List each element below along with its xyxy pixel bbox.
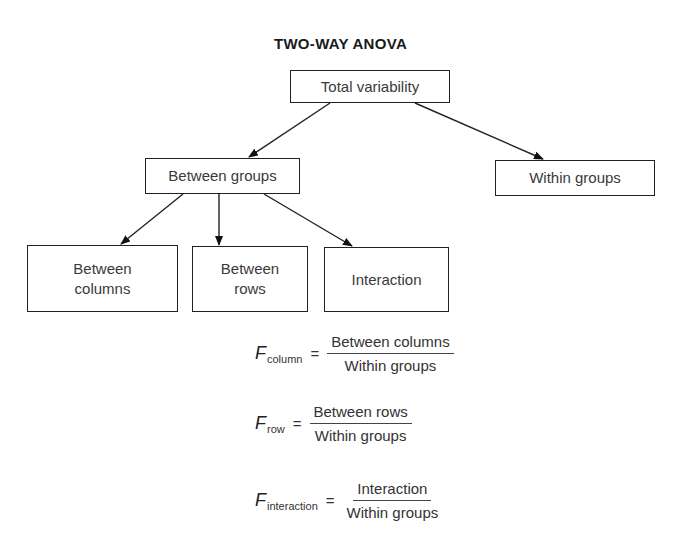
equals-sign: = [310,345,319,362]
node-label-line1: Between [73,259,131,279]
formula-f-row: F row = Between rows Within groups [255,403,412,444]
f-symbol: F [255,413,266,434]
node-within-groups: Within groups [495,160,655,196]
node-label-line2: rows [234,279,266,299]
f-subscript: interaction [267,500,318,512]
node-label: Within groups [529,168,621,188]
arrow-between-groups-to-columns [121,194,183,244]
denominator: Within groups [341,354,441,374]
f-subscript: row [267,423,285,435]
node-total-variability: Total variability [290,70,450,103]
denominator: Within groups [343,501,443,521]
node-label-line1: Between [221,259,279,279]
arrow-total-to-within-groups [415,103,543,159]
node-between-columns: Between columns [27,245,178,312]
node-label-line2: columns [75,279,131,299]
f-symbol: F [255,343,266,364]
numerator: Interaction [353,480,431,501]
fraction: Interaction Within groups [343,480,443,521]
arrow-between-groups-to-interaction [264,194,352,246]
fraction: Between columns Within groups [327,333,453,374]
fraction: Between rows Within groups [310,403,412,444]
equals-sign: = [293,415,302,432]
node-label: Between groups [168,166,276,186]
node-label: Total variability [321,77,419,97]
f-subscript: column [267,353,302,365]
numerator: Between rows [310,403,412,424]
node-between-groups: Between groups [145,158,300,194]
numerator: Between columns [327,333,453,354]
formula-f-column: F column = Between columns Within groups [255,333,454,374]
node-interaction: Interaction [324,247,449,312]
node-label: Interaction [351,270,421,290]
denominator: Within groups [311,424,411,444]
node-between-rows: Between rows [192,246,308,312]
f-symbol: F [255,490,266,511]
formula-f-interaction: F interaction = Interaction Within group… [255,480,442,521]
equals-sign: = [326,492,335,509]
arrow-total-to-between-groups [249,103,330,157]
